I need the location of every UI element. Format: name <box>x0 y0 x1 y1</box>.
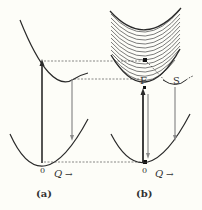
panel-a: 0 Q → (a) <box>10 20 88 199</box>
caption-b: (b) <box>136 188 152 199</box>
excited-state-curve-a <box>20 20 88 82</box>
s-state-curve-dotted <box>186 76 193 80</box>
arrowhead-down-icon <box>146 153 150 159</box>
axis-label-a: Q <box>54 168 62 179</box>
arrowhead-down-icon <box>70 135 74 141</box>
configuration-coordinate-diagram: 0 Q → (a) <box>0 0 202 210</box>
axis-arrow-a: → <box>65 169 73 179</box>
point-label-f: F <box>140 75 147 86</box>
ground-state-curve-a <box>10 119 88 166</box>
panel-b: F S 0 Q → (b) <box>110 8 193 199</box>
arrowhead-up-icon <box>141 88 146 95</box>
f-state-marker <box>143 86 146 89</box>
caption-a: (a) <box>36 188 52 199</box>
upper-state-marker <box>143 58 147 62</box>
axis-arrow-b: → <box>166 169 174 179</box>
arrowhead-up-icon <box>40 59 45 66</box>
origin-label-a: 0 <box>40 166 45 175</box>
axis-label-b: Q <box>155 168 163 179</box>
point-label-s: S <box>173 75 180 86</box>
origin-label-b: 0 <box>142 166 147 175</box>
excited-state-upper-curve-b <box>110 8 181 30</box>
ground-state-curve-b <box>111 114 190 163</box>
